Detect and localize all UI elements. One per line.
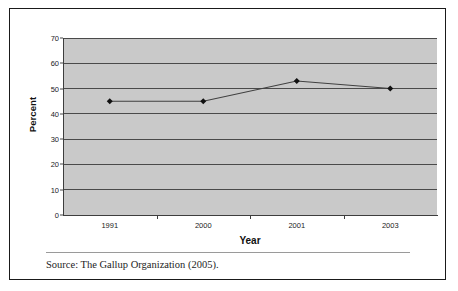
data-point bbox=[387, 86, 393, 92]
plot-area: 010203040506070 bbox=[63, 38, 437, 215]
line-chart: Percent 010203040506070 1991200020012003… bbox=[10, 9, 447, 231]
y-axis-line bbox=[63, 38, 64, 216]
y-tick-label: 60 bbox=[51, 59, 59, 68]
y-tick-label: 0 bbox=[55, 211, 59, 220]
x-tick-mark bbox=[344, 215, 345, 219]
series-line bbox=[110, 81, 391, 101]
figure-container: Percent 010203040506070 1991200020012003… bbox=[9, 8, 446, 280]
y-tick-label: 30 bbox=[51, 135, 59, 144]
y-tick-label: 50 bbox=[51, 84, 59, 93]
data-point bbox=[107, 98, 113, 104]
x-tick-mark bbox=[157, 215, 158, 219]
y-tick-label: 10 bbox=[51, 185, 59, 194]
y-tick-label: 40 bbox=[51, 109, 59, 118]
x-tick-label: 2003 bbox=[382, 221, 399, 230]
x-tick-mark bbox=[250, 215, 251, 219]
y-tick-label: 70 bbox=[51, 34, 59, 43]
y-tick-label: 20 bbox=[51, 160, 59, 169]
x-tick-label: 2001 bbox=[288, 221, 305, 230]
x-axis-title: Year bbox=[63, 235, 437, 246]
data-point bbox=[294, 78, 300, 84]
data-series-layer bbox=[63, 38, 437, 215]
data-point bbox=[200, 98, 206, 104]
x-tick-label: 1991 bbox=[101, 221, 118, 230]
y-axis-title: Percent bbox=[27, 75, 38, 155]
x-tick-label: 2000 bbox=[195, 221, 212, 230]
source-note: Source: The Gallup Organization (2005). bbox=[46, 259, 219, 270]
note-divider bbox=[46, 252, 410, 253]
